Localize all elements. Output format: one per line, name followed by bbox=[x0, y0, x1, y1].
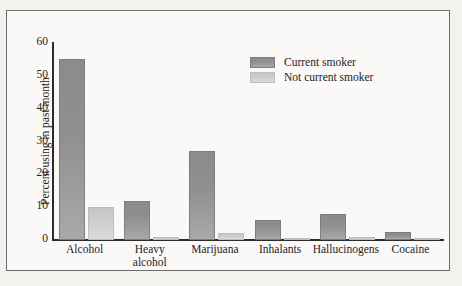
legend-item: Current smoker bbox=[250, 56, 373, 68]
y-axis-tick-labels: 0102030405060 bbox=[7, 11, 48, 286]
x-category-label-line: Marijuana bbox=[182, 243, 247, 256]
bar-not-current-smoker bbox=[218, 233, 244, 240]
bar-not-current-smoker bbox=[349, 237, 375, 240]
x-category-label-line: Inhalants bbox=[248, 243, 313, 256]
legend-swatch-icon bbox=[250, 72, 275, 83]
x-category-label-line: Hallucinogens bbox=[313, 243, 378, 256]
bar-current-smoker bbox=[59, 59, 85, 240]
bar-current-smoker bbox=[255, 220, 281, 240]
chart-legend: Current smokerNot current smoker bbox=[250, 56, 373, 86]
x-category-label-line: Alcohol bbox=[52, 243, 117, 256]
x-category-label: Hallucinogens bbox=[313, 243, 378, 256]
bar-not-current-smoker bbox=[284, 238, 310, 240]
y-tick-label: 60 bbox=[14, 36, 48, 48]
bar-not-current-smoker bbox=[88, 207, 114, 240]
y-tick-label: 50 bbox=[14, 69, 48, 81]
x-category-label: Heavyalcohol bbox=[117, 243, 182, 269]
legend-swatch-icon bbox=[250, 57, 275, 68]
y-tick-label: 40 bbox=[14, 102, 48, 114]
legend-label: Not current smoker bbox=[284, 71, 373, 83]
bar-group bbox=[124, 42, 179, 240]
chart-frame: Percent using in past month 010203040506… bbox=[6, 10, 450, 271]
legend-item: Not current smoker bbox=[250, 71, 373, 83]
bar-current-smoker bbox=[189, 151, 215, 240]
bar-group bbox=[385, 42, 440, 240]
x-category-label: Alcohol bbox=[52, 243, 117, 256]
x-category-label: Cocaine bbox=[378, 243, 443, 256]
x-category-label: Marijuana bbox=[182, 243, 247, 256]
bar-current-smoker bbox=[385, 232, 411, 240]
bar-not-current-smoker bbox=[153, 237, 179, 240]
y-tick-label: 20 bbox=[14, 168, 48, 180]
x-category-label-line: alcohol bbox=[117, 256, 182, 269]
figure-container: Percent using in past month 010203040506… bbox=[0, 0, 462, 286]
x-category-label-line: Cocaine bbox=[378, 243, 443, 256]
bar-current-smoker bbox=[124, 201, 150, 240]
bar-group bbox=[189, 42, 244, 240]
legend-label: Current smoker bbox=[284, 56, 356, 68]
bar-group bbox=[59, 42, 114, 240]
x-category-label-line: Heavy bbox=[117, 243, 182, 256]
y-tick-label: 30 bbox=[14, 135, 48, 147]
y-tick-label: 10 bbox=[14, 200, 48, 212]
plot-area bbox=[52, 42, 443, 240]
y-tick-label: 0 bbox=[14, 233, 48, 245]
x-category-label: Inhalants bbox=[248, 243, 313, 256]
bar-current-smoker bbox=[320, 214, 346, 240]
bar-not-current-smoker bbox=[414, 238, 440, 240]
